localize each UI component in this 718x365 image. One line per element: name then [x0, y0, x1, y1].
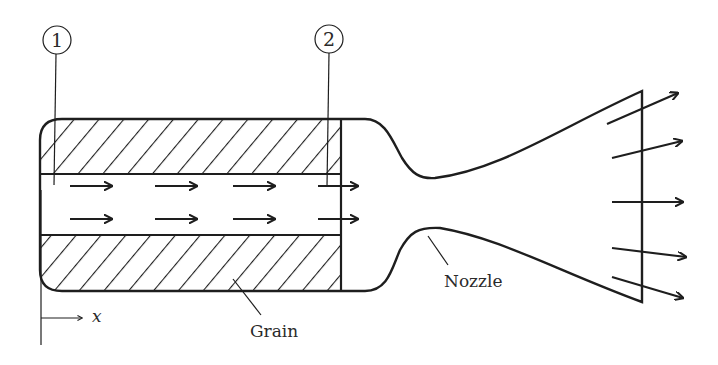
- exit-flow-arrows: [607, 93, 686, 298]
- grain-upper: [40, 119, 341, 174]
- station-1-marker: [41, 26, 71, 345]
- internal-flow-arrows: [70, 186, 358, 219]
- rocket-diagram: 1 2 x Grain Nozzle: [0, 0, 718, 365]
- exit-arrow-icon: [612, 141, 682, 158]
- station-1-label: 1: [51, 29, 63, 51]
- x-axis-label: x: [92, 306, 102, 326]
- grain-label: Grain: [250, 321, 298, 341]
- grain-lower: [40, 235, 341, 291]
- station-2-label: 2: [323, 28, 335, 50]
- nozzle-label: Nozzle: [444, 271, 503, 291]
- nozzle-leader-line: [428, 236, 448, 265]
- exit-arrow-icon: [612, 248, 686, 257]
